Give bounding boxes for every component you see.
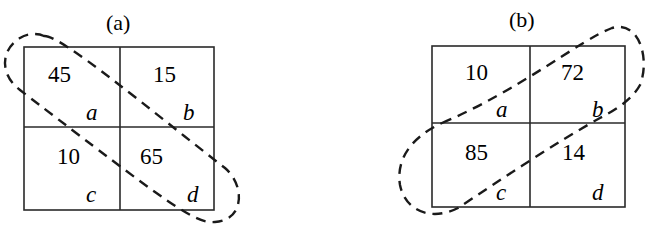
panel-b-dashed-loop <box>399 27 643 214</box>
panel-a-cell-c-label: c <box>86 182 96 207</box>
panel-a: (a) 45 a 15 b 10 c 65 d <box>5 10 239 222</box>
panel-a-cell-a-label: a <box>86 100 98 125</box>
panel-b-cell-b-value: 72 <box>561 60 584 85</box>
diagram-canvas: (a) 45 a 15 b 10 c 65 d (b) 10 a 72 b 85… <box>0 0 651 232</box>
panel-a-cell-b-label: b <box>183 100 195 125</box>
panel-b-cell-d-value: 14 <box>562 140 586 165</box>
panel-a-title: (a) <box>106 10 130 35</box>
panel-b-cell-d-label: d <box>592 180 604 205</box>
panel-b-cell-c-value: 85 <box>465 140 488 165</box>
panel-a-cell-d-label: d <box>187 182 199 207</box>
panel-a-dashed-loop <box>5 34 239 222</box>
panel-a-cell-d-value: 65 <box>140 144 163 169</box>
panel-b-cell-a-value: 10 <box>465 60 488 85</box>
panel-a-cell-a-value: 45 <box>48 62 71 87</box>
panel-b-cell-a-label: a <box>496 97 508 122</box>
panel-b-title: (b) <box>509 7 535 32</box>
panel-a-cell-b-value: 15 <box>153 62 176 87</box>
panel-b: (b) 10 a 72 b 85 c 14 d <box>399 7 643 214</box>
panel-a-cell-c-value: 10 <box>57 144 80 169</box>
panel-b-cell-c-label: c <box>496 180 506 205</box>
